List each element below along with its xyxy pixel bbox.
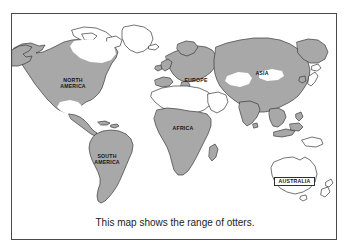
world-map-svg <box>12 14 336 216</box>
landmass-australia <box>271 157 317 194</box>
landmass-ireland <box>155 65 162 71</box>
landmass-new-zealand-north <box>326 179 333 187</box>
map-figure: NORTH AMERICA SOUTH AMERICA EUROPE ASIA … <box>0 0 349 252</box>
landmass-caribbean <box>98 121 110 125</box>
landmass-sri-lanka <box>253 123 258 128</box>
landmass-philippines <box>296 112 303 121</box>
landmass-india <box>239 101 260 126</box>
landmass-hispaniola <box>111 124 119 128</box>
landmass-hokkaido <box>312 64 321 71</box>
landmass-sub-saharan-africa <box>154 108 211 175</box>
landmass-central-america <box>69 114 97 136</box>
landmass-borneo <box>290 123 303 131</box>
landmass-iberia <box>155 77 173 87</box>
landmass-new-zealand-south <box>321 187 330 197</box>
landmass-madagascar <box>209 144 218 161</box>
landmass-new-guinea <box>302 137 323 147</box>
landmass-greenland <box>122 25 153 53</box>
map-caption: This map shows the range of otters. <box>12 217 338 228</box>
landmass-tasmania <box>300 195 307 201</box>
landmass-south-america <box>89 130 133 203</box>
landmass-arabia <box>208 92 228 113</box>
figure-frame: NORTH AMERICA SOUTH AMERICA EUROPE ASIA … <box>11 13 337 240</box>
landmass-southeast-asia <box>269 108 286 127</box>
world-map: NORTH AMERICA SOUTH AMERICA EUROPE ASIA … <box>12 14 336 216</box>
